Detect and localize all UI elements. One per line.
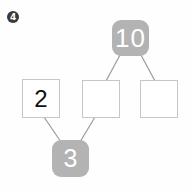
number-bond-worksheet-problem: 4 10 2 3: [0, 0, 192, 190]
connector-addend2-to-sum3: [44, 117, 61, 142]
node-blank-middle[interactable]: [82, 80, 120, 118]
node-blank-right[interactable]: [140, 80, 178, 118]
connector-total10-to-blank-right: [141, 55, 155, 81]
node-addend-2[interactable]: 2: [22, 79, 60, 118]
connector-blank-middle-to-sum3: [80, 117, 95, 142]
node-total-10[interactable]: 10: [112, 20, 149, 56]
connector-total10-to-blank-middle: [106, 55, 120, 81]
node-sum-3[interactable]: 3: [52, 140, 89, 177]
